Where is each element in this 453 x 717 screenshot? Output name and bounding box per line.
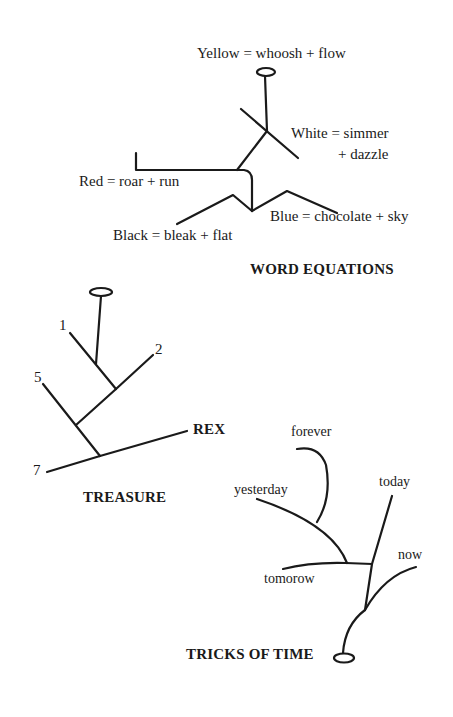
branch-rex: [100, 431, 187, 456]
label-7: 7: [33, 463, 41, 478]
trunk-mid: [76, 389, 116, 425]
branch-2: [116, 355, 153, 389]
treasure-stem: [96, 296, 101, 364]
trunk-to-red: [237, 131, 267, 170]
branch-1: [70, 333, 116, 389]
label-black: Black = bleak + flat: [113, 228, 232, 243]
label-5: 5: [34, 370, 42, 385]
branch-5: [43, 384, 100, 456]
label-white-line2: + dazzle: [338, 147, 389, 162]
yesterday-branch: [257, 499, 347, 563]
label-blue: Blue = chocolate + sky: [270, 209, 409, 224]
label-rex: REX: [193, 422, 225, 437]
diagram-canvas: [0, 0, 453, 717]
title-tricks-of-time: TRICKS OF TIME: [186, 647, 314, 662]
label-forever: forever: [291, 425, 331, 439]
label-tomorrow: tomorow: [264, 572, 315, 586]
label-1: 1: [59, 318, 67, 333]
treasure-figure: [43, 288, 187, 472]
label-now: now: [398, 548, 422, 562]
tricks-of-time-base-oval: [334, 654, 354, 663]
label-red: Red = roar + run: [79, 174, 179, 189]
now-branch: [365, 567, 416, 610]
label-yellow: Yellow = whoosh + flow: [197, 46, 346, 61]
title-treasure: TREASURE: [83, 490, 166, 505]
forever-branch: [297, 448, 328, 522]
main-trunk-lower: [343, 610, 365, 653]
label-yesterday: yesterday: [234, 483, 288, 497]
word-equations-head-oval: [257, 68, 275, 76]
word-equations-figure: [136, 68, 337, 224]
today-branch: [365, 496, 392, 610]
branch-7: [47, 456, 100, 472]
yellow-stem: [265, 76, 267, 131]
white-branch: [241, 109, 298, 158]
label-today: today: [379, 475, 410, 489]
treasure-head-oval: [90, 288, 112, 296]
tomorrow-branch: [283, 563, 372, 569]
title-word-equations: WORD EQUATIONS: [250, 262, 394, 277]
black-branch: [177, 195, 252, 224]
label-white-line1: White = simmer: [291, 126, 389, 141]
label-2: 2: [155, 342, 163, 357]
